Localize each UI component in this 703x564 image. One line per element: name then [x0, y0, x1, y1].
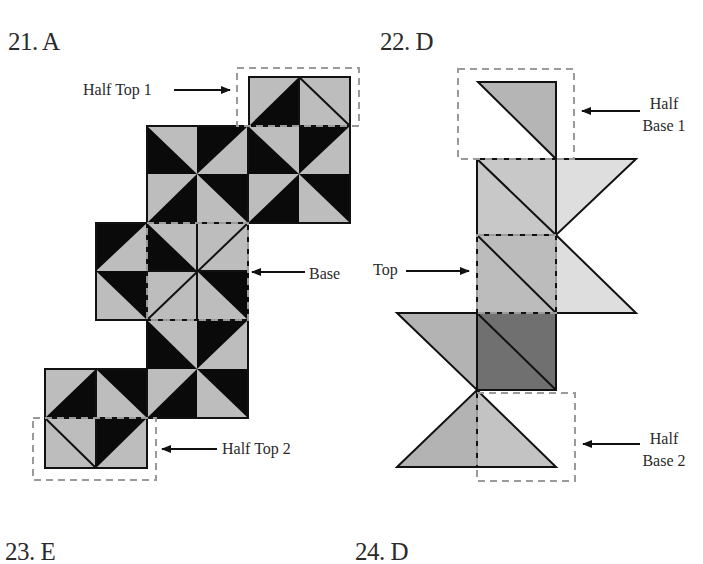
- figure-22-net: [397, 82, 636, 467]
- face-left-triangle: [397, 313, 477, 390]
- face-square-dark: [477, 313, 556, 390]
- face-right-triangle-1: [556, 159, 636, 235]
- top-face: [477, 235, 556, 313]
- half-base-1-face: [478, 82, 556, 159]
- face-bottom-left-triangle: [397, 390, 477, 467]
- face-right-triangle-2: [556, 235, 636, 313]
- net-diagrams: [0, 0, 703, 564]
- face-row-1: [147, 126, 350, 223]
- face-lower-middle: [147, 320, 248, 418]
- half-top-1-face: [249, 77, 350, 126]
- face-lower-left: [45, 369, 147, 418]
- face-left: [96, 223, 147, 320]
- face-square-1: [477, 159, 556, 235]
- half-base-2-face: [477, 390, 556, 467]
- base-face: [147, 223, 248, 320]
- half-top-2-face: [45, 418, 147, 468]
